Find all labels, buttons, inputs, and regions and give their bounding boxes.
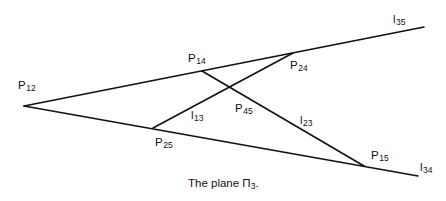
point-label-base: P [155,136,163,148]
point-label-P15: P15 [371,150,389,162]
point-label-subscript: 25 [163,140,172,150]
line-label-l23: l23 [300,115,313,127]
point-label-P14: P14 [188,53,206,65]
line-label-l13: l13 [191,110,204,122]
point-label-P12: P12 [18,80,36,92]
line-label-subscript: 13 [194,113,203,123]
line-label-subscript: 35 [396,17,405,27]
point-label-base: P [188,52,196,64]
line-l34 [24,106,418,176]
point-label-base: P [371,149,379,161]
plane-diagram: P12P14P24P45P25P15l35l34l13l23 The plane… [0,0,446,201]
line-l35 [24,27,424,106]
caption-symbol: Π [242,177,250,189]
point-label-subscript: 24 [298,63,307,73]
line-l13 [153,53,293,128]
point-label-base: P [18,79,26,91]
caption-subscript: 3 [251,181,256,191]
point-label-subscript: 14 [196,56,205,66]
point-label-base: P [235,102,243,114]
point-label-subscript: 45 [243,106,252,116]
caption-text: The plane [188,177,242,189]
line-layer [0,0,446,201]
point-label-subscript: 12 [26,83,35,93]
point-label-P45: P45 [235,103,253,115]
line-label-subscript: 34 [423,165,432,175]
point-label-base: P [290,59,298,71]
line-label-l34: l34 [420,162,433,174]
caption: The plane Π3. [188,178,259,190]
point-label-subscript: 15 [379,153,388,163]
point-label-P24: P24 [290,60,308,72]
line-label-subscript: 23 [303,118,312,128]
caption-suffix: . [255,177,258,189]
line-label-l35: l35 [393,14,406,26]
point-label-P25: P25 [155,137,173,149]
